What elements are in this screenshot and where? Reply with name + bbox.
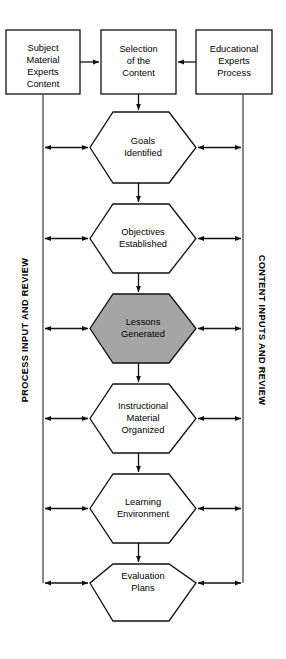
hex-label-learning-line-2: Environment bbox=[117, 509, 170, 519]
hex-label-objectives-line-2: Established bbox=[119, 239, 167, 249]
box-label-educational-line-1: Educational bbox=[210, 44, 259, 54]
flowchart-canvas: Subject Material Experts Content Selecti… bbox=[0, 0, 286, 659]
box-label-educational-line-3: Process bbox=[217, 68, 251, 78]
box-label-selection-line-2: of the bbox=[127, 56, 150, 66]
top-box-educational-experts-process: Educational Experts Process bbox=[196, 30, 272, 94]
box-label-subject-line-1: Subject bbox=[27, 43, 58, 53]
box-label-educational-line-2: Experts bbox=[218, 56, 250, 66]
hex-label-instructional-line-2: Material bbox=[126, 413, 159, 423]
rail-label-process-input-and-review: PROCESS INPUT AND REVIEW bbox=[20, 258, 30, 402]
top-box-subject-material-experts-content: Subject Material Experts Content bbox=[6, 30, 80, 94]
rail-label-content-inputs-and-review: CONTENT INPUTS AND REVIEW bbox=[257, 255, 267, 405]
hex-label-learning-line-1: Learning bbox=[125, 497, 161, 507]
hexagon-objectives-established: Objectives Established bbox=[90, 204, 196, 273]
hex-label-evaluation-line-2: Plans bbox=[131, 583, 155, 593]
hex-label-evaluation-line-1: Evaluation bbox=[121, 571, 164, 581]
hex-label-lessons-line-2: Generated bbox=[121, 329, 165, 339]
box-label-subject-line-4: Content bbox=[27, 79, 60, 89]
top-box-selection-of-the-content: Selection of the Content bbox=[101, 30, 176, 94]
box-label-selection-line-3: Content bbox=[122, 68, 155, 78]
hex-label-objectives-line-1: Objectives bbox=[121, 227, 165, 237]
hex-label-goals-line-1: Goals bbox=[131, 136, 156, 146]
hexagon-learning-environment: Learning Environment bbox=[90, 474, 196, 543]
hexagon-instructional-material-organized: Instructional Material Organized bbox=[90, 384, 196, 453]
box-label-selection-line-1: Selection bbox=[119, 44, 157, 54]
hex-label-instructional-line-1: Instructional bbox=[118, 401, 168, 411]
hex-label-goals-line-2: Identified bbox=[124, 148, 162, 158]
box-label-subject-line-3: Experts bbox=[27, 67, 59, 77]
hex-label-lessons-line-1: Lessons bbox=[126, 317, 161, 327]
hex-label-instructional-line-3: Organized bbox=[122, 425, 165, 435]
box-label-subject-line-2: Material bbox=[26, 55, 59, 65]
hexagon-goals-identified: Goals Identified bbox=[90, 112, 196, 183]
flowchart-diagram: Subject Material Experts Content Selecti… bbox=[0, 0, 286, 659]
hexagon-evaluation-plans: Evaluation Plans bbox=[90, 564, 196, 621]
hexagon-lessons-generated: Lessons Generated bbox=[90, 294, 196, 363]
